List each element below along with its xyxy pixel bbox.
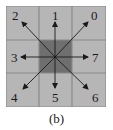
arrow-6-icon — [55, 57, 88, 89]
arrow-0-icon — [55, 22, 88, 57]
direction-label-4: 4 — [11, 91, 18, 104]
arrow-4-icon — [23, 57, 55, 89]
direction-label-3: 3 — [11, 51, 18, 64]
direction-label-7: 7 — [92, 51, 99, 64]
direction-label-6: 6 — [92, 91, 99, 104]
direction-label-5: 5 — [52, 91, 59, 104]
direction-label-2: 2 — [12, 9, 19, 22]
figure-caption: (b) — [0, 111, 113, 127]
direction-label-0: 0 — [91, 9, 98, 22]
arrow-2-icon — [22, 22, 55, 57]
direction-label-1: 1 — [52, 9, 59, 22]
